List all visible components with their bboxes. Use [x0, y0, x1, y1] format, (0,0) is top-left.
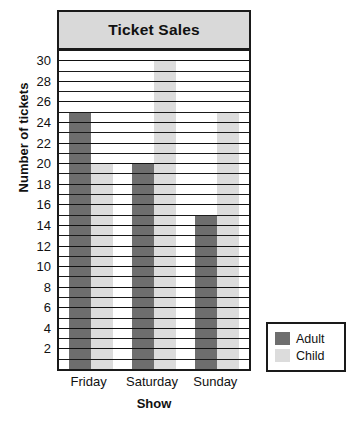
legend-item-child: Child [275, 347, 337, 364]
legend-item-adult: Adult [275, 330, 337, 347]
chart-legend: Adult Child [266, 322, 346, 372]
y-tick-label: 28 [37, 73, 51, 88]
x-axis: FridaySaturdaySunday [57, 374, 251, 394]
y-axis-title: Number of tickets [16, 58, 31, 218]
x-tick-label-sunday: Sunday [193, 374, 237, 389]
y-tick-label: 6 [44, 300, 51, 315]
x-tick-label-saturday: Saturday [126, 374, 178, 389]
y-tick-label: 26 [37, 94, 51, 109]
legend-label-adult: Adult [296, 332, 325, 346]
chart-title-band: Ticket Sales [59, 12, 249, 50]
y-tick-label: 12 [37, 238, 51, 253]
y-tick-label: 16 [37, 197, 51, 212]
plot-area [59, 50, 249, 369]
chart-title: Ticket Sales [108, 21, 200, 39]
y-tick-label: 30 [37, 53, 51, 68]
bar-friday-adult [69, 112, 91, 369]
bar-sunday-adult [195, 215, 217, 369]
bar-friday-child [91, 163, 113, 369]
y-tick-label: 22 [37, 135, 51, 150]
bar-sunday-child [217, 112, 239, 369]
x-axis-title: Show [57, 396, 251, 411]
y-tick-label: 18 [37, 176, 51, 191]
y-tick-label: 8 [44, 279, 51, 294]
bar-saturday-adult [132, 163, 154, 369]
y-axis: Number of tickets 2468101214161820222426… [0, 0, 57, 425]
x-tick-label-friday: Friday [71, 374, 107, 389]
chart-frame: Ticket Sales [57, 10, 251, 371]
y-tick-label: 20 [37, 156, 51, 171]
legend-label-child: Child [296, 349, 325, 363]
y-tick-label: 10 [37, 259, 51, 274]
legend-swatch-adult-icon [275, 332, 290, 345]
legend-swatch-child-icon [275, 349, 290, 362]
y-tick-label: 4 [44, 320, 51, 335]
y-tick-label: 2 [44, 341, 51, 356]
y-tick-label: 24 [37, 115, 51, 130]
y-tick-label: 14 [37, 217, 51, 232]
bar-saturday-child [154, 60, 176, 369]
bars-layer [59, 50, 249, 369]
